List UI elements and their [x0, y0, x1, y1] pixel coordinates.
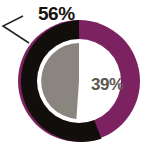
outer-segment-label: 56%: [38, 3, 75, 24]
inner-segment-label: 39%: [91, 75, 124, 94]
donut-chart-svg: 56% 39%: [0, 0, 162, 161]
donut-chart: 56% 39%: [0, 0, 162, 161]
